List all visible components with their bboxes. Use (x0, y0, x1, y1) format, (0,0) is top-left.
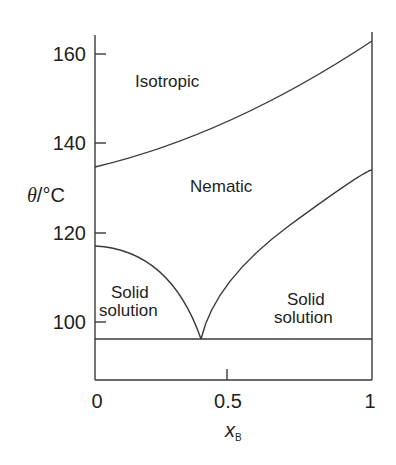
x-axis-title: xB (224, 419, 242, 443)
region-label-solid-left-1: Solid (111, 283, 149, 302)
region-label-nematic: Nematic (190, 177, 253, 196)
region-label-solid-left-2: solution (99, 301, 158, 320)
x-tick-label-1: 1 (364, 390, 375, 412)
y-ticks (95, 54, 106, 322)
y-tick-label-120: 120 (53, 222, 86, 244)
region-label-solid-right-1: Solid (287, 290, 325, 309)
x-tick-label-0: 0 (91, 390, 102, 412)
phase-diagram: 160 140 120 100 0 0.5 1 θ/°C xB Isotropi… (0, 0, 396, 465)
y-tick-label-160: 160 (53, 43, 86, 65)
x-tick-label-0.5: 0.5 (214, 390, 242, 412)
y-tick-label-140: 140 (53, 132, 86, 154)
region-label-solid-right-2: solution (274, 308, 333, 327)
isotropic-nematic-curve (95, 41, 372, 167)
y-tick-label-100: 100 (53, 311, 86, 333)
region-label-isotropic: Isotropic (135, 72, 200, 91)
y-axis-title: θ/°C (27, 184, 65, 206)
